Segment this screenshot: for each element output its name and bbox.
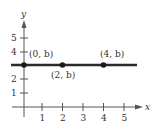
point-label-0-b: (0, b) xyxy=(29,49,53,59)
svg-text:1: 1 xyxy=(40,113,46,123)
svg-text:5: 5 xyxy=(122,113,128,123)
y-axis-arrow-icon xyxy=(22,20,27,28)
svg-text:3: 3 xyxy=(81,113,87,123)
svg-text:2: 2 xyxy=(11,74,17,84)
x-tick-labels: 1 2 3 4 5 xyxy=(40,113,128,123)
svg-text:2: 2 xyxy=(60,113,66,123)
x-axis: x xyxy=(12,102,150,112)
svg-text:4: 4 xyxy=(11,47,17,57)
point-2-b xyxy=(60,62,66,68)
y-axis-label: y xyxy=(20,9,27,19)
svg-text:4: 4 xyxy=(101,113,107,123)
x-axis-arrow-icon xyxy=(135,105,143,110)
point-label-4-b: (4, b) xyxy=(100,49,124,59)
svg-text:5: 5 xyxy=(11,33,17,43)
svg-text:1: 1 xyxy=(11,88,17,98)
point-4-b xyxy=(101,62,107,68)
x-axis-label: x xyxy=(145,102,150,112)
chart-canvas: x y 1 2 3 4 5 1 2 4 5 (0, b) (2, b) xyxy=(0,0,152,128)
point-0-b xyxy=(21,62,27,68)
point-label-2-b: (2, b) xyxy=(51,70,75,80)
